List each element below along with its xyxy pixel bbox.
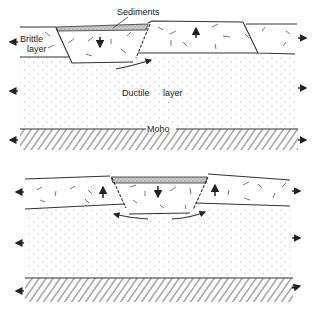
right-shoulder-block bbox=[196, 175, 290, 206]
ductile-layer-bottom bbox=[25, 208, 293, 278]
layer-label: layer bbox=[163, 88, 183, 98]
sediments-bottom bbox=[111, 177, 207, 183]
sediments-top bbox=[56, 24, 148, 31]
brittle-label-line2: layer bbox=[27, 44, 47, 54]
rift-diagram: Sediments Brittle layer Ductile layer Mo… bbox=[0, 0, 315, 309]
moho-label: Moho bbox=[147, 124, 170, 134]
bottom-panel bbox=[16, 174, 300, 302]
ductile-layer-top bbox=[20, 55, 298, 129]
mantle-hatch-bottom bbox=[25, 278, 293, 302]
sediments-label: Sediments bbox=[117, 7, 160, 17]
ductile-label: Ductile bbox=[122, 88, 150, 98]
extension-arrow-right-6 bbox=[292, 286, 300, 288]
top-panel: Sediments Brittle layer Ductile layer Mo… bbox=[10, 7, 306, 150]
brittle-label-line1: Brittle bbox=[20, 34, 43, 44]
left-shoulder-block bbox=[25, 176, 124, 209]
